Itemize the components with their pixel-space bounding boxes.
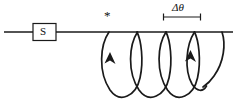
helix-loop-3 (159, 32, 199, 97)
asterisk-marker-icon: * (104, 9, 111, 22)
delta-theta-label: Δθ (172, 2, 184, 13)
source-box-label: S (40, 26, 46, 37)
helix-loop-1 (102, 32, 142, 97)
flow-arrow-left-icon (105, 52, 116, 64)
delta-theta-bracket (163, 14, 201, 21)
physics-figure: S * Δθ (0, 0, 236, 107)
diagram-canvas (0, 0, 236, 107)
helix-tail (203, 32, 224, 87)
helix-path-group (102, 32, 224, 97)
helix-loop-2 (131, 32, 171, 97)
arrowhead-group (105, 50, 197, 64)
